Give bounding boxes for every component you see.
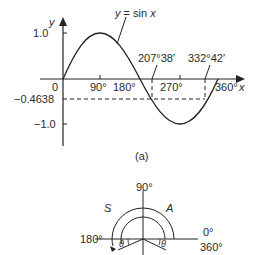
y-axis-arrow-icon (59, 17, 67, 26)
y-axis-label: y (48, 16, 56, 28)
x-tick-360: 360° (215, 81, 238, 93)
quadrant-s: S (104, 202, 112, 214)
diagram-canvas: y 1.0 0 90° 180° 270° 360° x −0.4638 −1.… (0, 0, 260, 255)
caption-a: (a) (135, 150, 148, 162)
x-tick-90: 90° (90, 81, 107, 93)
annotation-332: 332°42′ (188, 52, 225, 64)
y-tick-1: 1.0 (33, 27, 48, 39)
x-tick-0: 0 (52, 81, 58, 93)
y-tick-ref: −0.4638 (14, 93, 54, 105)
theta-left: θ (119, 239, 124, 249)
sine-graph: y 1.0 0 90° 180° 270° 360° x −0.4638 −1.… (14, 7, 245, 162)
angle-90: 90° (136, 181, 153, 193)
y-tick-neg1: −1.0 (34, 118, 56, 130)
x-axis-label: x (238, 81, 245, 93)
x-tick-180: 180° (113, 81, 136, 93)
x-tick-270: 270° (160, 81, 183, 93)
angle-360: 360° (200, 241, 223, 253)
angle-180: 180° (80, 233, 103, 245)
arc-arrow-icon (110, 246, 116, 252)
quadrant-a: A (165, 202, 173, 214)
quadrant-diagram: 90° S A 180° 0° 360° θ θ (80, 181, 223, 255)
curve-label: y = sin x (114, 7, 156, 19)
annotation-207: 207°38′ (138, 52, 175, 64)
theta-right: θ (161, 239, 166, 249)
angle-0: 0° (203, 226, 214, 238)
